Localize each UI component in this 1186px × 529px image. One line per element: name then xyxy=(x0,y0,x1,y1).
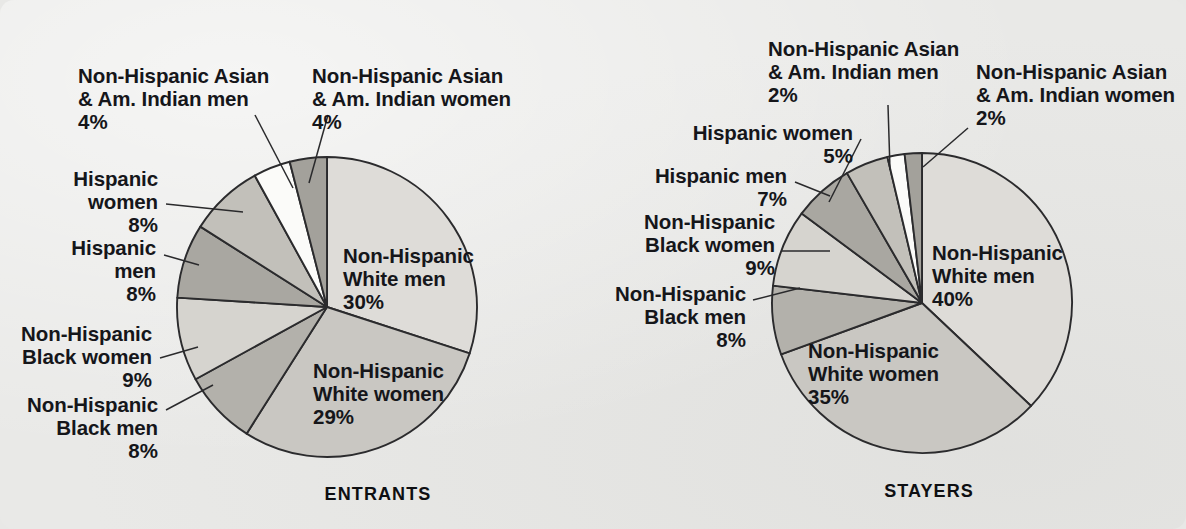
chart-page: Non-Hispanic Asian & Am. Indian men 4% N… xyxy=(0,0,1186,529)
label-black-women-entrants-line1: Non-Hispanic xyxy=(21,322,152,345)
label-black-women-stayers-line2: Black women xyxy=(645,233,775,256)
label-white-men-entrants-line1: Non-Hispanic xyxy=(343,244,474,267)
label-white-women-entrants-pct: 29% xyxy=(313,405,354,428)
label-white-women-stayers-line2: White women xyxy=(808,362,939,385)
label-hispanic-women-stayers-pct: 5% xyxy=(823,144,853,167)
label-black-men-entrants-line1: Non-Hispanic xyxy=(27,393,158,416)
label-hispanic-men-stayers: Hispanic men xyxy=(655,164,787,187)
stayers-pie-group xyxy=(772,153,1072,453)
label-black-women-stayers-pct: 9% xyxy=(745,256,775,279)
label-white-men-stayers-line2: White men xyxy=(932,264,1035,287)
label-asian-men-entrants-line2: & Am. Indian men xyxy=(78,87,249,110)
label-black-men-stayers-line2: Black men xyxy=(644,305,746,328)
label-white-men-stayers-pct: 40% xyxy=(932,287,973,310)
stayers-slices xyxy=(772,153,1072,453)
caption-stayers: STAYERS xyxy=(884,481,974,501)
label-white-men-stayers-line1: Non-Hispanic xyxy=(932,241,1063,264)
label-asian-men-stayers-line1: Non-Hispanic Asian xyxy=(768,37,959,60)
label-asian-women-entrants-line2: & Am. Indian women xyxy=(312,87,511,110)
label-black-men-stayers-line1: Non-Hispanic xyxy=(615,282,746,305)
label-white-men-entrants-pct: 30% xyxy=(343,290,384,313)
label-white-women-entrants-line2: White women xyxy=(313,382,444,405)
label-asian-women-stayers-line2: & Am. Indian women xyxy=(976,83,1175,106)
label-asian-women-entrants-line1: Non-Hispanic Asian xyxy=(312,64,503,87)
label-black-women-entrants-line2: Black women xyxy=(22,345,152,368)
label-black-women-stayers-line1: Non-Hispanic xyxy=(644,210,775,233)
label-black-men-entrants-pct: 8% xyxy=(128,439,158,462)
label-black-men-stayers-pct: 8% xyxy=(716,328,746,351)
label-asian-women-entrants-pct: 4% xyxy=(312,110,342,133)
caption-entrants: ENTRANTS xyxy=(325,484,432,504)
leader-black-men-entrants xyxy=(166,385,213,410)
pie-charts-figure: Non-Hispanic Asian & Am. Indian men 4% N… xyxy=(0,0,1186,529)
label-white-women-stayers-pct: 35% xyxy=(808,385,849,408)
label-hispanic-men-stayers-pct: 7% xyxy=(757,187,787,210)
label-hispanic-women-entrants-pct: 8% xyxy=(128,213,158,236)
label-asian-men-stayers-pct: 2% xyxy=(768,83,798,106)
label-asian-men-entrants-line1: Non-Hispanic Asian xyxy=(78,64,269,87)
label-hispanic-men-entrants-pct: 8% xyxy=(126,282,156,305)
label-asian-men-entrants-pct: 4% xyxy=(78,110,108,133)
label-hispanic-women-entrants-line2: women xyxy=(87,190,158,213)
label-white-women-entrants-line1: Non-Hispanic xyxy=(313,359,444,382)
label-black-men-entrants-line2: Black men xyxy=(56,416,158,439)
label-asian-women-stayers-line1: Non-Hispanic Asian xyxy=(976,60,1167,83)
label-black-women-entrants-pct: 9% xyxy=(122,368,152,391)
label-asian-men-stayers-line2: & Am. Indian men xyxy=(768,60,939,83)
label-white-women-stayers-line1: Non-Hispanic xyxy=(808,339,939,362)
label-hispanic-men-entrants-line2: men xyxy=(114,259,156,282)
label-hispanic-women-stayers: Hispanic women xyxy=(693,121,853,144)
label-white-men-entrants-line2: White men xyxy=(343,267,446,290)
label-hispanic-men-entrants-line1: Hispanic xyxy=(71,236,156,259)
label-hispanic-women-entrants-line1: Hispanic xyxy=(73,167,158,190)
label-asian-women-stayers-pct: 2% xyxy=(976,106,1006,129)
